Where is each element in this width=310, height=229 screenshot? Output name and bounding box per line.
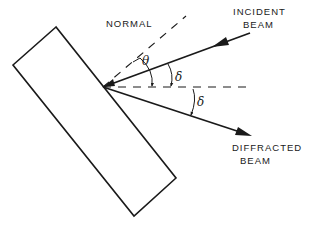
diffracted-beam-label-line1: DIFFRACTED [232, 142, 302, 153]
theta-arc-tail [133, 58, 140, 62]
normal-label: NORMAL [106, 18, 153, 29]
crystal-block [13, 27, 176, 216]
delta-lower-arc [191, 89, 195, 115]
diffracted-beam-line [103, 87, 240, 132]
incident-beam-label-line2: BEAM [243, 19, 274, 30]
incident-arrow-icon [212, 37, 229, 47]
delta-upper-arc [168, 64, 172, 86]
delta-upper-label: δ [175, 70, 182, 84]
theta-label: θ [142, 54, 150, 68]
incident-beam-label-line1: INCIDENT [233, 6, 286, 17]
diffracted-arrow-icon [235, 127, 252, 136]
delta-lower-label: δ [197, 95, 204, 109]
diffraction-diagram: θ δ δ NORMAL INCIDENT BEAM DIFFRACTED BE… [0, 0, 310, 229]
diffracted-beam-label-line2: BEAM [240, 155, 271, 166]
incident-contact-arrow-icon [103, 79, 115, 87]
